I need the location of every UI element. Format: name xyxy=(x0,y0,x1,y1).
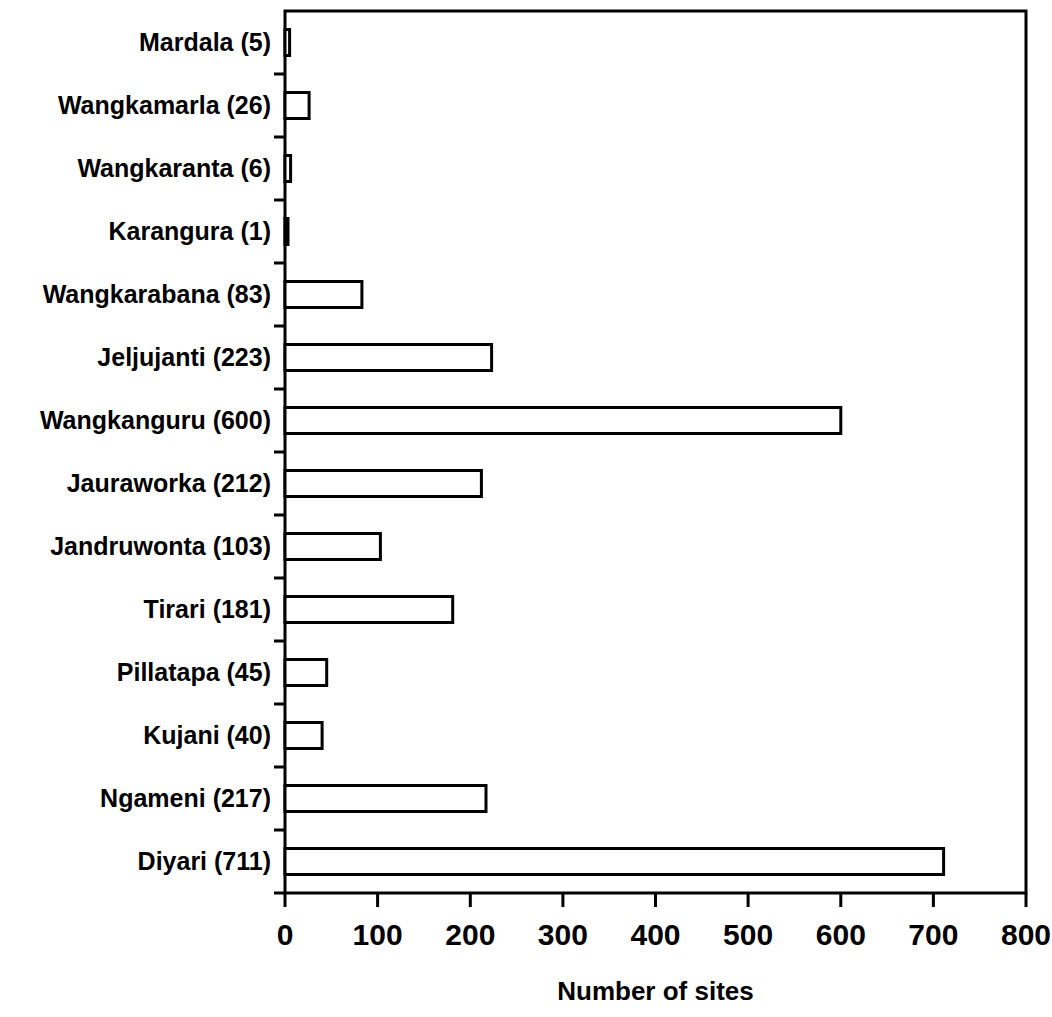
plot-frame xyxy=(285,11,1026,893)
bar xyxy=(285,219,288,245)
y-axis-category-label: Tirari (181) xyxy=(144,595,271,623)
bar xyxy=(285,723,322,749)
y-axis-category-label: Ngameni (217) xyxy=(100,784,271,812)
x-tick-label: 800 xyxy=(1001,918,1051,951)
x-tick-label: 700 xyxy=(908,918,958,951)
y-axis-category-label: Wangkaranta (6) xyxy=(77,154,271,182)
x-tick-label: 200 xyxy=(445,918,495,951)
bar xyxy=(285,30,290,56)
y-axis-ticks xyxy=(274,74,285,893)
bar-chart-figure: Mardala (5)Wangkamarla (26)Wangkaranta (… xyxy=(0,0,1052,1017)
x-tick-label: 300 xyxy=(538,918,588,951)
x-tick-label: 400 xyxy=(630,918,680,951)
y-axis-category-label: Mardala (5) xyxy=(139,28,271,56)
x-tick-label: 0 xyxy=(277,918,294,951)
bar xyxy=(285,534,380,560)
bar xyxy=(285,282,362,308)
x-tick-label: 600 xyxy=(816,918,866,951)
y-axis-category-label: Wangkanguru (600) xyxy=(40,406,271,434)
y-axis-category-label: Jandruwonta (103) xyxy=(50,532,271,560)
bar xyxy=(285,471,481,497)
bar xyxy=(285,408,841,434)
chart-canvas: Mardala (5)Wangkamarla (26)Wangkaranta (… xyxy=(0,0,1052,1017)
x-axis-ticks xyxy=(285,893,1026,907)
x-tick-label: 500 xyxy=(723,918,773,951)
x-tick-label: 100 xyxy=(353,918,403,951)
x-axis-title: Number of sites xyxy=(557,976,754,1006)
y-axis-category-label: Jauraworka (212) xyxy=(67,469,271,497)
bars-group xyxy=(285,30,944,875)
y-axis-category-label: Kujani (40) xyxy=(143,721,271,749)
bar xyxy=(285,849,944,875)
y-axis-category-label: Jeljujanti (223) xyxy=(97,343,271,371)
bar xyxy=(285,345,492,371)
bar xyxy=(285,597,453,623)
y-axis-category-label: Karangura (1) xyxy=(108,217,271,245)
bar xyxy=(285,660,327,686)
x-axis-tick-labels: 0100200300400500600700800 xyxy=(277,918,1051,951)
bar xyxy=(285,786,486,812)
y-axis-category-label: Wangkarabana (83) xyxy=(43,280,271,308)
bar xyxy=(285,93,309,119)
y-axis-category-labels: Mardala (5)Wangkamarla (26)Wangkaranta (… xyxy=(40,28,271,875)
y-axis-category-label: Pillatapa (45) xyxy=(117,658,271,686)
y-axis-category-label: Wangkamarla (26) xyxy=(58,91,271,119)
y-axis-category-label: Diyari (711) xyxy=(138,847,271,875)
bar xyxy=(285,156,291,182)
